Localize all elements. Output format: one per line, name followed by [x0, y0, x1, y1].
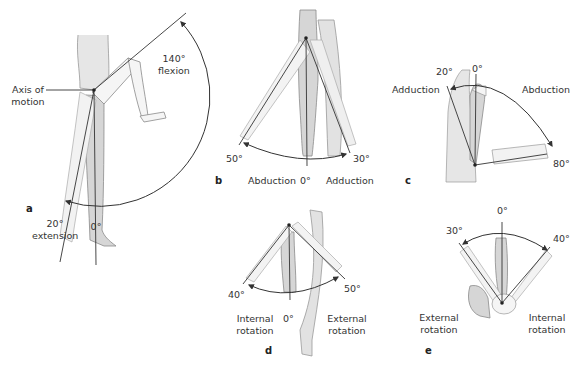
panel-c-adduction-label: Adduction [392, 84, 440, 95]
panel-c-abduction-value: 80° [553, 158, 570, 169]
flexion-label: flexion [154, 65, 194, 76]
panel-c-adduction-value: 20° [436, 66, 453, 77]
panel-e-neutral-value: 0° [497, 205, 508, 216]
panel-c-abduction-label: Abduction [522, 84, 570, 95]
panel-d-external-label-line2: rotation [322, 325, 372, 336]
axis-of-motion-label-line1: Axis of [8, 84, 48, 95]
panel-e-external-label-line2: rotation [414, 324, 464, 335]
panel-d-internal-value: 40° [228, 289, 245, 300]
panel-e-rotation-supine [459, 222, 552, 318]
panel-e-external-value: 30° [446, 225, 463, 236]
panel-d-neutral-value: 0° [283, 313, 294, 324]
panel-e-internal-label-line2: rotation [524, 324, 570, 335]
panel-d-external-value: 50° [344, 283, 361, 294]
panel-a-flexion-extension [46, 13, 210, 265]
panel-e-external-label-line1: External [414, 312, 464, 323]
panel-a-neutral-value: 0° [86, 221, 106, 232]
panel-c-letter: c [405, 175, 411, 186]
panel-b-abduction-adduction [239, 10, 356, 166]
flexion-value: 140° [158, 53, 190, 64]
panel-b-adduction-value: 30° [353, 153, 370, 164]
panel-b-neutral-value: 0° [300, 175, 311, 186]
panel-a-letter: a [26, 203, 33, 214]
panel-b-letter: b [215, 175, 222, 186]
panel-d-internal-label-line1: Internal [232, 313, 278, 324]
panel-d-letter: d [265, 345, 272, 356]
panel-b-abduction-label: Abduction [248, 175, 296, 186]
panel-d-external-label-line1: External [322, 313, 372, 324]
panel-b-abduction-value: 50° [226, 153, 243, 164]
panel-e-internal-value: 40° [553, 233, 570, 244]
extension-label: extension [32, 230, 78, 241]
panel-e-letter: e [425, 345, 432, 356]
panel-d-internal-label-line2: rotation [232, 325, 278, 336]
panel-c-neutral-value: 0° [472, 63, 483, 74]
panel-b-adduction-label: Adduction [326, 175, 374, 186]
panel-e-internal-label-line1: Internal [524, 312, 570, 323]
extension-value: 20° [40, 218, 70, 229]
axis-of-motion-label-line2: motion [8, 96, 48, 107]
